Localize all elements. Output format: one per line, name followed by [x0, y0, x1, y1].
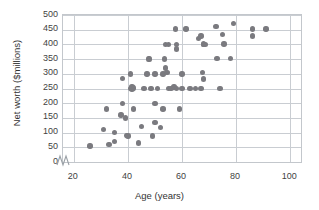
y-tick-label: 100	[43, 127, 58, 136]
data-point	[164, 70, 169, 75]
data-point	[155, 86, 160, 91]
data-point	[147, 56, 152, 61]
x-axis-title: Age (years)	[0, 191, 319, 201]
data-point	[220, 32, 225, 37]
y-tick-label: 50	[48, 142, 58, 151]
data-point	[141, 86, 146, 91]
data-point	[136, 140, 141, 145]
x-tick-label: 40	[122, 172, 132, 181]
data-point	[179, 86, 184, 91]
data-point	[101, 127, 106, 132]
data-point	[158, 125, 163, 130]
data-point	[162, 56, 167, 61]
data-point	[123, 115, 128, 120]
y-tick-label: 300	[43, 68, 58, 77]
data-point	[183, 26, 188, 31]
data-point	[198, 86, 203, 91]
data-point	[250, 26, 255, 31]
data-point	[173, 26, 178, 31]
y-tick-label: 400	[43, 39, 58, 48]
gridline-vertical	[290, 15, 291, 162]
data-point	[201, 76, 206, 81]
data-point	[179, 71, 184, 76]
data-point	[112, 139, 117, 144]
data-point	[152, 120, 157, 125]
data-point	[87, 143, 92, 148]
gridline-vertical	[236, 15, 237, 162]
data-point	[177, 106, 182, 111]
data-point	[198, 33, 203, 38]
data-point	[160, 106, 165, 111]
data-point	[148, 86, 153, 91]
data-point	[120, 76, 125, 81]
scatter-chart: 050100150200250300350400450500 204060801…	[0, 0, 319, 210]
data-point	[131, 106, 136, 111]
y-tick-label: 200	[43, 98, 58, 107]
y-tick-label: 250	[43, 83, 58, 92]
gridline-vertical	[74, 15, 75, 162]
x-tick-label: 100	[282, 172, 297, 181]
x-tick-label: 60	[176, 172, 186, 181]
data-point	[152, 101, 157, 106]
data-point	[214, 56, 219, 61]
data-point	[139, 124, 144, 129]
data-point	[106, 142, 111, 147]
data-point	[221, 41, 226, 46]
x-tick-label: 80	[230, 172, 240, 181]
plot-area	[62, 14, 302, 163]
data-point	[128, 71, 133, 76]
data-point	[250, 33, 255, 38]
data-point	[125, 133, 130, 138]
y-tick-label: 350	[43, 54, 58, 63]
data-point	[150, 133, 155, 138]
data-point	[166, 42, 171, 47]
x-tick-label: 20	[68, 172, 78, 181]
data-point	[231, 21, 236, 26]
data-point	[120, 101, 125, 106]
y-tick-label: 500	[43, 10, 58, 19]
data-point	[152, 71, 157, 76]
data-point	[144, 71, 149, 76]
data-point	[213, 24, 218, 29]
y-tick-label: 150	[43, 112, 58, 121]
axis-break-icon	[56, 153, 78, 167]
data-point	[131, 85, 136, 90]
data-point	[200, 70, 205, 75]
data-point	[112, 130, 117, 135]
data-point	[104, 106, 109, 111]
x-axis-tick-labels: 20406080100	[0, 172, 319, 184]
data-point	[202, 42, 207, 47]
data-point	[263, 26, 268, 31]
data-point	[228, 56, 233, 61]
data-point	[217, 86, 222, 91]
y-axis-title: Net worth ($millions)	[12, 13, 22, 153]
y-tick-label: 450	[43, 24, 58, 33]
